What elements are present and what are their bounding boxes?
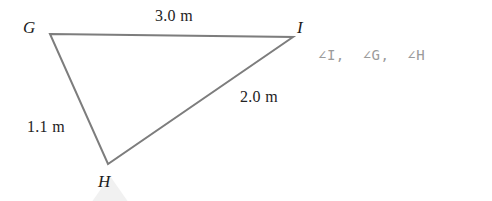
side-length-label-gh: 1.1 m bbox=[27, 119, 65, 135]
side-length-label-gi: 3.0 m bbox=[155, 8, 193, 24]
vertex-label-g: G bbox=[23, 19, 35, 36]
vertex-label-i: I bbox=[297, 19, 303, 36]
vertex-label-h: H bbox=[98, 173, 110, 190]
geometry-figure: G I H 3.0 m 2.0 m 1.1 m ∠I, ∠G, ∠H bbox=[0, 0, 492, 201]
angle-ordering-answer: ∠I, ∠G, ∠H bbox=[318, 48, 425, 62]
side-length-label-ih: 2.0 m bbox=[240, 89, 278, 105]
